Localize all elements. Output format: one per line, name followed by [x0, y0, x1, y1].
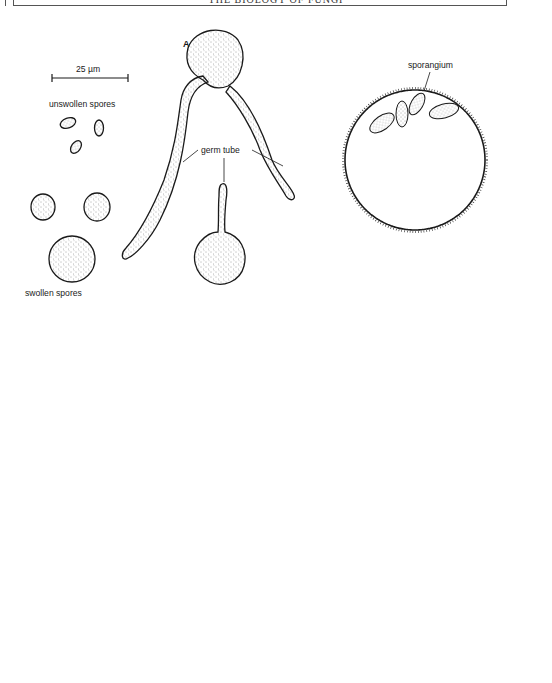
- sporangium-label-c: sporangium: [408, 60, 453, 70]
- germ-tube-label: germ tube: [201, 145, 240, 155]
- unswollen-spores: [59, 116, 104, 156]
- figure-canvas: A 25 µm unswollen spores swollen spores: [0, 0, 552, 683]
- panel-a: A 25 µm unswollen spores swollen spores: [25, 30, 294, 298]
- swollen-spores-label: swollen spores: [25, 288, 82, 298]
- unswollen-spores-label: unswollen spores: [49, 99, 115, 109]
- scale-bar-25um-label: 25 µm: [76, 64, 100, 74]
- sporangium-leader-c: [424, 72, 430, 91]
- swollen-spores: [31, 193, 110, 282]
- scale-bar-25um: [52, 74, 128, 82]
- panel-c: sporangium: [343, 60, 487, 232]
- germinating-spore-one-tube: [195, 184, 245, 285]
